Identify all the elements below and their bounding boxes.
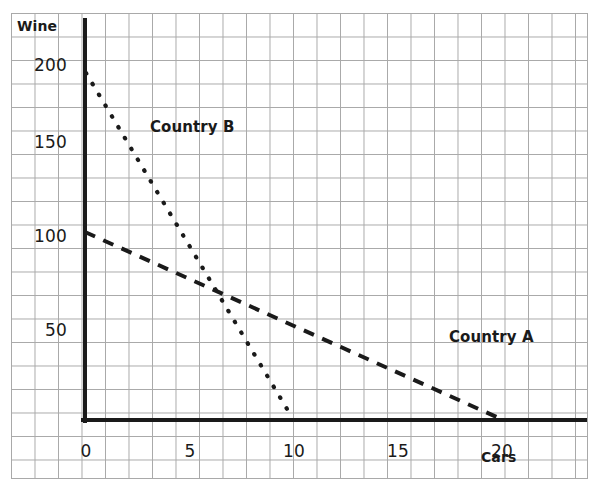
graph-paper-background: [11, 13, 588, 479]
series-label-country-a: Country A: [449, 330, 534, 345]
x-tick-label-20: 20: [482, 443, 522, 460]
x-tick-label-15: 15: [378, 443, 418, 460]
x-tick-label-5: 5: [170, 443, 210, 460]
y-tick-label-100: 100: [21, 228, 67, 245]
y-tick-label-200: 200: [21, 57, 67, 74]
y-tick-label-50: 50: [21, 322, 67, 339]
y-tick-label-150: 150: [21, 134, 67, 151]
chart-page: Wine Cars 200 150 100 50 0 5 10 15 20 Co…: [0, 0, 606, 492]
series-label-country-b: Country B: [150, 120, 235, 135]
x-tick-label-10: 10: [274, 443, 314, 460]
x-tick-label-0: 0: [66, 443, 106, 460]
y-axis-title: Wine: [17, 19, 57, 33]
